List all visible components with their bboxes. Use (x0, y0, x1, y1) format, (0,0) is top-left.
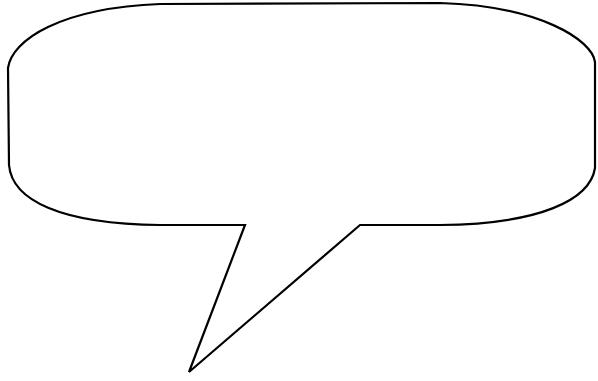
speech-bubble-text (40, 40, 560, 190)
